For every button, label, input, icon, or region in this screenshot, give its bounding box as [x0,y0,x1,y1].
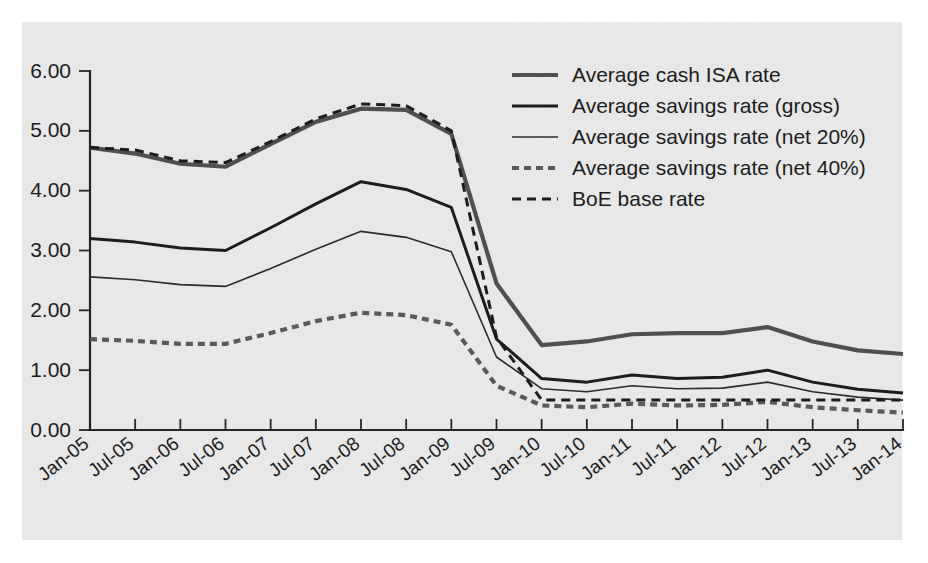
y-tick-label: 0.00 [30,418,71,441]
x-axis-ticks [90,419,903,430]
legend-label: Average savings rate (gross) [572,94,840,117]
x-tick-label: Jan-07 [214,433,273,485]
x-tick-label: Jan-12 [666,433,725,485]
x-axis-labels: Jan-05Jul-05Jan-06Jul-06Jan-07Jul-07Jan-… [34,432,906,485]
y-tick-label: 2.00 [30,298,71,321]
y-tick-label: 6.00 [30,59,71,82]
legend-label: Average savings rate (net 40%) [572,156,866,179]
x-tick-label: Jan-08 [305,433,364,485]
y-tick-label: 1.00 [30,358,71,381]
x-tick-label: Jan-06 [124,433,183,485]
x-tick-label: Jan-10 [485,433,544,485]
legend-label: Average cash ISA rate [572,63,781,86]
series-line [90,182,903,393]
series-line [90,313,903,413]
y-tick-label: 5.00 [30,118,71,141]
x-tick-label: Jan-11 [577,433,635,484]
chart-figure: 0.001.002.003.004.005.006.00 Jan-05Jul-0… [0,0,928,563]
x-tick-label: Jan-09 [395,433,454,485]
legend-label: Average savings rate (net 20%) [572,125,866,148]
x-tick-label: Jan-13 [756,433,815,485]
line-chart: 0.001.002.003.004.005.006.00 Jan-05Jul-0… [0,0,928,563]
y-tick-label: 4.00 [30,178,71,201]
series-lines [90,104,903,413]
chart-legend: Average cash ISA rateAverage savings rat… [512,63,866,210]
y-tick-label: 3.00 [30,238,71,261]
y-axis-ticks: 0.001.002.003.004.005.006.00 [30,59,90,441]
legend-label: BoE base rate [572,187,705,210]
x-tick-label: Jan-14 [847,432,906,485]
